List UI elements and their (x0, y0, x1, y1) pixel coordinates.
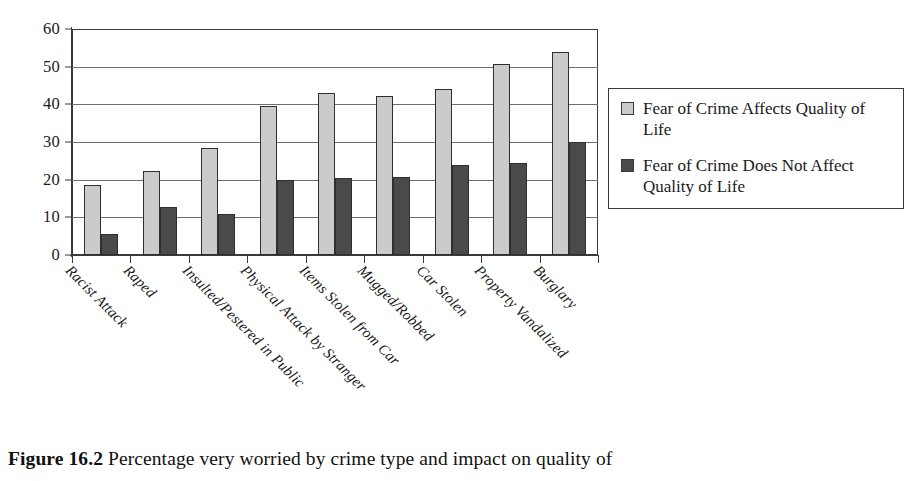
bar-group (189, 29, 247, 255)
legend: Fear of Crime Affects Quality of LifeFea… (608, 88, 904, 209)
y-tick-label: 30 (43, 132, 60, 152)
bar (101, 234, 118, 255)
y-tick-label: 50 (43, 57, 60, 77)
bar (335, 178, 352, 255)
x-axis-ticks (72, 255, 598, 263)
figure-container: 0102030405060 Racist AttackRapedInsulted… (0, 0, 924, 481)
bar (143, 171, 160, 255)
figure-caption-label: Figure 16.2 (8, 448, 103, 469)
x-tick-mark (598, 255, 599, 263)
legend-label: Fear of Crime Does Not Affect Quality of… (643, 155, 893, 198)
bars-layer (72, 29, 598, 255)
legend-entry: Fear of Crime Does Not Affect Quality of… (621, 155, 893, 198)
bar-group (481, 29, 539, 255)
bar (160, 207, 177, 255)
y-tick-label: 10 (43, 207, 60, 227)
y-tick-label: 20 (43, 170, 60, 190)
legend-entry: Fear of Crime Affects Quality of Life (621, 98, 893, 141)
legend-swatch-icon (621, 159, 634, 172)
x-axis-label: Burglary (530, 262, 580, 312)
plot-area (72, 29, 598, 255)
bar (393, 177, 410, 255)
bar (376, 96, 393, 255)
y-axis: 0102030405060 (0, 29, 72, 255)
y-tick-label: 40 (43, 94, 60, 114)
bar-group (247, 29, 305, 255)
y-tick-label: 0 (52, 245, 60, 265)
bar (493, 64, 510, 255)
bar-group (540, 29, 598, 255)
bar (218, 214, 235, 255)
bar (277, 180, 294, 255)
bar (569, 142, 586, 255)
bar-group (306, 29, 364, 255)
x-axis-label: Car Stolen (413, 262, 471, 320)
bar (452, 165, 469, 255)
figure-caption: Figure 16.2 Percentage very worried by c… (8, 446, 916, 471)
x-axis-label: Raped (120, 262, 159, 301)
bar (201, 148, 218, 255)
bar (260, 106, 277, 255)
bar (84, 185, 101, 255)
bar-group (423, 29, 481, 255)
legend-swatch-icon (621, 102, 634, 115)
y-tick-label: 60 (43, 19, 60, 39)
bar-group (130, 29, 188, 255)
figure-caption-text: Percentage very worried by crime type an… (108, 448, 612, 469)
bar (510, 163, 527, 255)
bar (552, 52, 569, 255)
bar-group (364, 29, 422, 255)
bar (318, 93, 335, 255)
x-axis-label: Items Stolen from Car (296, 262, 403, 369)
bar (435, 89, 452, 255)
legend-label: Fear of Crime Affects Quality of Life (643, 98, 893, 141)
bar-group (72, 29, 130, 255)
